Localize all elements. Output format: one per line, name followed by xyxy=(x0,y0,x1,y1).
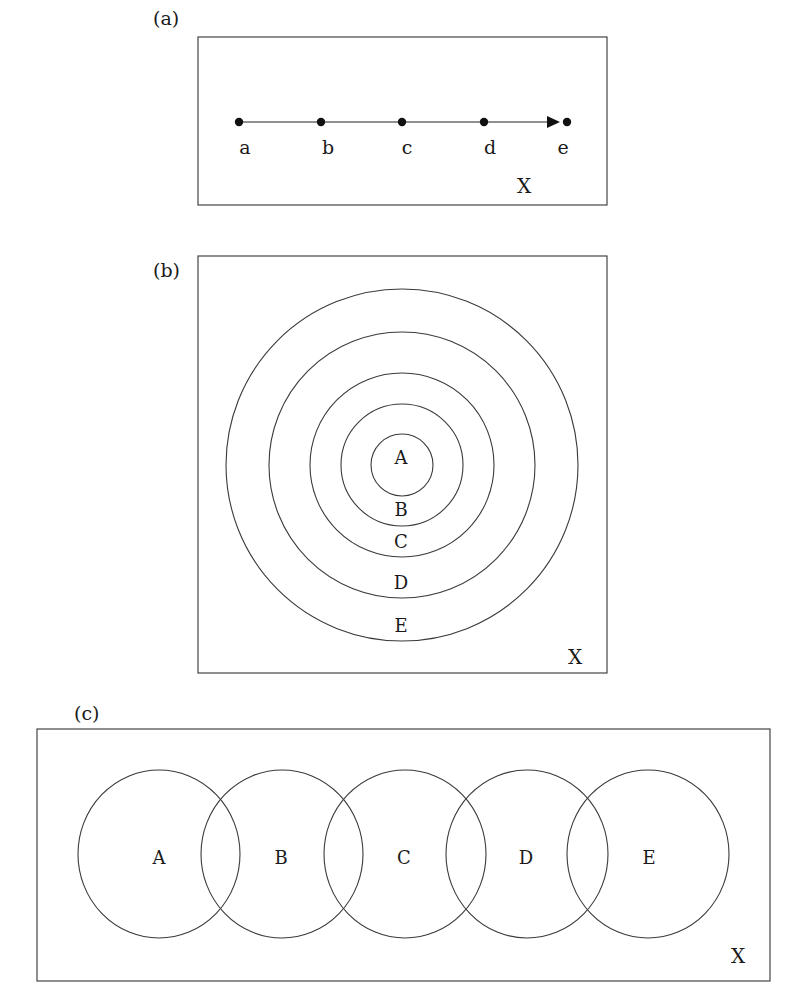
set-label-b: B xyxy=(394,499,407,520)
panel-a-tag: (a) xyxy=(153,7,179,29)
point-c xyxy=(398,118,406,126)
panel-b-tag: (b) xyxy=(153,259,180,281)
point-b xyxy=(317,118,325,126)
arrowhead-icon xyxy=(547,116,560,128)
point-label-c: c xyxy=(402,136,413,158)
universe-label-c: X xyxy=(731,944,746,968)
universe-label-b: X xyxy=(568,645,583,669)
point-d xyxy=(480,118,488,126)
panel-b: (b) A B C D E X xyxy=(153,256,607,673)
panel-c-tag: (c) xyxy=(74,702,99,724)
point-a xyxy=(235,118,243,126)
set-label-d: D xyxy=(394,572,408,593)
universe-label-a: X xyxy=(517,174,532,198)
point-label-b: b xyxy=(322,136,334,158)
set-label-d: D xyxy=(519,847,533,868)
point-label-e: e xyxy=(557,136,568,158)
point-label-d: d xyxy=(484,136,496,158)
point-e xyxy=(563,118,571,126)
set-label-c: C xyxy=(397,847,411,868)
set-label-a: A xyxy=(394,447,409,468)
panel-c: (c) A B C D E X xyxy=(37,702,770,981)
set-label-e: E xyxy=(394,615,407,636)
figure-canvas: (a) a b c d e X (b) A B C D E X (c) xyxy=(0,0,810,1001)
set-label-a: A xyxy=(152,847,167,868)
panel-a: (a) a b c d e X xyxy=(153,7,607,205)
set-label-c: C xyxy=(394,531,408,552)
set-label-e: E xyxy=(642,847,655,868)
set-label-b: B xyxy=(274,847,287,868)
point-label-a: a xyxy=(239,136,250,158)
